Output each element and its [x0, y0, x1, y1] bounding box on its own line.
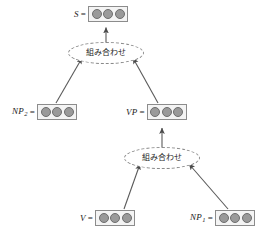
node-np2-vector — [37, 104, 77, 120]
node-np1-vector — [215, 210, 255, 226]
edge-vp-to-optop — [133, 58, 158, 103]
node-vp-vector — [147, 104, 187, 120]
edge-np2-to-optop — [56, 58, 82, 103]
vector-cell — [122, 213, 132, 223]
node-s-vector — [88, 6, 128, 22]
vector-cell — [150, 107, 160, 117]
vector-cell — [115, 9, 125, 19]
operator-combine-top-label: 組み合わせ — [86, 49, 125, 57]
vector-cell — [173, 107, 183, 117]
vector-cell — [103, 9, 113, 19]
node-vp: VP = — [126, 104, 187, 120]
diagram-canvas: S = 組み合わせ NP2 = VP = 組み合わせ — [0, 0, 264, 238]
node-np2-label: NP2 — [12, 107, 28, 118]
vector-cell — [230, 213, 240, 223]
operator-combine-top: 組み合わせ — [68, 42, 144, 64]
edge-v-to-opbottom — [124, 164, 140, 209]
edge-np1-to-opbottom — [189, 164, 228, 209]
node-s: S = — [74, 6, 128, 22]
node-vp-label: VP — [126, 108, 137, 117]
vector-cell — [162, 107, 172, 117]
equals-sign-v: = — [86, 214, 96, 223]
vector-cell — [110, 213, 120, 223]
node-np1: NP1 = — [190, 210, 255, 226]
node-np1-label: NP1 — [190, 213, 206, 224]
vector-cell — [99, 213, 109, 223]
operator-combine-bottom: 組み合わせ — [124, 147, 200, 169]
vector-cell — [41, 107, 51, 117]
vector-cell — [242, 213, 252, 223]
vector-cell — [92, 9, 102, 19]
vector-cell — [219, 213, 229, 223]
vector-cell — [64, 107, 74, 117]
node-np2: NP2 = — [12, 104, 77, 120]
equals-sign-s: = — [79, 10, 89, 19]
node-v: V = — [80, 210, 135, 226]
node-v-vector — [95, 210, 135, 226]
equals-sign-np2: = — [28, 108, 38, 117]
equals-sign-np1: = — [206, 214, 216, 223]
equals-sign-vp: = — [137, 108, 147, 117]
vector-cell — [52, 107, 62, 117]
operator-combine-bottom-label: 組み合わせ — [142, 154, 181, 162]
